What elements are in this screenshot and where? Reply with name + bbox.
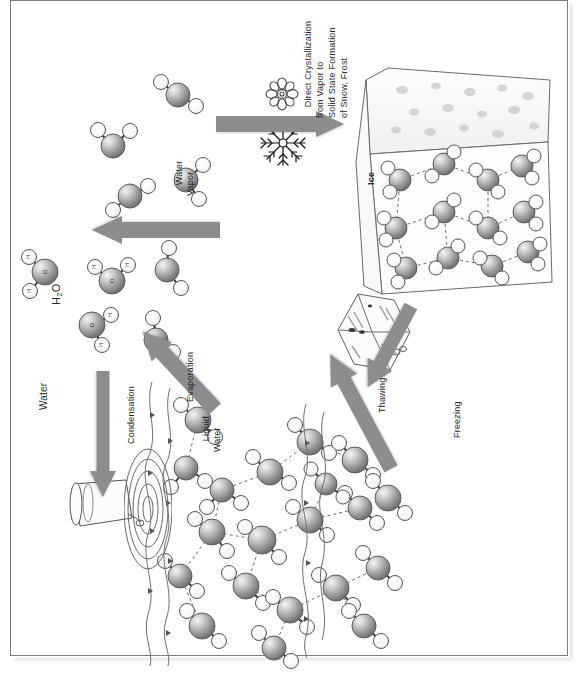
thawing-label: Thawing [377, 378, 387, 413]
h2o-o: O [50, 283, 62, 292]
h2o-subscript: 2 [55, 292, 64, 297]
figure-page: O H H O H H O H H [0, 0, 584, 678]
svg-text:O: O [109, 278, 115, 283]
liquid-water-label: Liquid Water [190, 416, 234, 452]
svg-text:O: O [89, 322, 95, 327]
freezing-label: Freezing [452, 401, 462, 438]
ice-label: Ice [366, 172, 376, 185]
h2o-h: H [50, 297, 62, 305]
svg-text:H: H [124, 263, 130, 267]
vapor-molecule [106, 179, 156, 218]
arrow-sublimation [90, 216, 220, 244]
direct-crystallization-label: Direct Crystallization from Vapor to Sol… [290, 21, 362, 118]
svg-text:H: H [107, 313, 113, 317]
svg-text:H: H [91, 265, 97, 269]
labelled-water-molecule: O H H [79, 308, 119, 353]
vapor-molecule [91, 123, 138, 159]
vapor-molecule [155, 241, 189, 296]
svg-text:H: H [98, 343, 104, 347]
arrow-condensation [90, 371, 116, 501]
svg-text:H: H [26, 289, 32, 293]
svg-text:H: H [25, 255, 31, 259]
svg-text:O: O [42, 269, 48, 274]
condensation-label: Condensation [126, 386, 136, 444]
vapor-molecule [154, 75, 204, 114]
evaporation-label: Evaporation [185, 352, 195, 402]
ice-cube-illustration [352, 62, 568, 300]
water-surface-lines-right [296, 400, 336, 660]
water-label: Water [38, 383, 49, 410]
labelled-water-molecule: O H H [88, 258, 136, 295]
water-vapor-label: Water Vapor [163, 161, 207, 196]
direct-crystallization-text: Direct Crystallization from Vapor to Sol… [303, 21, 349, 118]
liquid-water-text: Liquid Water [201, 416, 222, 452]
water-vapor-text: Water Vapor [174, 161, 195, 196]
h2o-label: H2O [38, 283, 76, 318]
water-ripple-icon [124, 448, 172, 570]
